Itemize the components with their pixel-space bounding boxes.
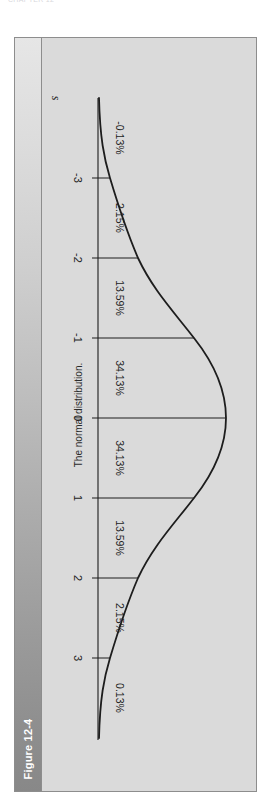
running-head: CHAPTER 12 — [8, 0, 54, 3]
figure-number-label: Figure 12-4 — [22, 719, 34, 780]
region-percent-label: 13.59% — [114, 280, 126, 316]
normal-distribution-chart: -3 -2 -1 0 1 2 3 -0.13% 2.15% 13.59% 34.… — [42, 40, 256, 790]
region-percent-label: 34.13% — [114, 440, 126, 476]
x-tick-label: 3 — [72, 654, 84, 660]
figure-frame: Figure 12-4 The normal distribution. — [14, 37, 257, 792]
region-percent-label: 0.13% — [114, 683, 126, 713]
x-tick-label: -1 — [72, 333, 84, 343]
x-tick-label: -3 — [72, 173, 84, 183]
region-percent-label: 2.15% — [114, 203, 126, 233]
x-axis-variable-label: s — [49, 95, 63, 100]
region-percent-label: 34.13% — [114, 360, 126, 396]
region-percent-label: -0.13% — [114, 121, 126, 154]
figure-plot-panel: The normal distribution. — [42, 38, 256, 791]
region-percent-label: 13.59% — [114, 520, 126, 556]
chart-svg: -3 -2 -1 0 1 2 3 -0.13% 2.15% 13.59% 34.… — [42, 40, 256, 790]
region-percent-label: 2.15% — [114, 603, 126, 633]
x-tick-label: 0 — [72, 414, 84, 420]
x-tick-label: 2 — [72, 574, 84, 580]
x-tick-label: 1 — [72, 494, 84, 500]
figure-label-strip: Figure 12-4 — [15, 38, 42, 791]
x-tick-label: -2 — [72, 253, 84, 263]
